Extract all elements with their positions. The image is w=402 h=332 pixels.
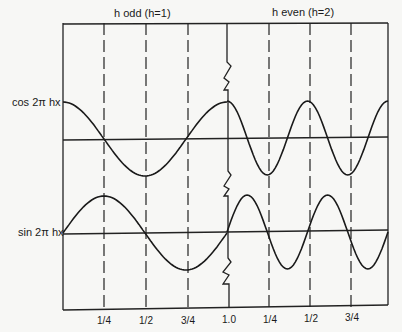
- waveform-diagram: [0, 0, 402, 332]
- cos-label: cos 2π hx: [12, 97, 61, 108]
- tick-label: 1.0: [222, 315, 236, 325]
- tick-label: 1/2: [304, 314, 318, 324]
- tick-label: 1/2: [139, 316, 153, 326]
- tick-label: 1/4: [263, 315, 277, 325]
- tick-label: 3/4: [181, 316, 195, 326]
- header-h-even: h even (h=2): [272, 7, 334, 18]
- tick-label: 1/4: [97, 316, 111, 326]
- header-h-odd: h odd (h=1): [114, 8, 171, 19]
- tick-label: 3/4: [345, 313, 359, 323]
- sin-label: sin 2π hx: [18, 227, 64, 238]
